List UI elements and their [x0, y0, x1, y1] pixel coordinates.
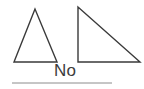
acute-isosceles-triangle-icon [14, 9, 57, 62]
right-triangle-icon [78, 7, 140, 62]
worksheet-canvas: No [0, 0, 144, 89]
answer-label: No [0, 62, 130, 80]
